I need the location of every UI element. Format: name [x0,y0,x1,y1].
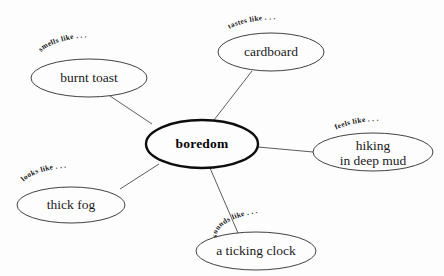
edge-tastes [214,71,252,120]
branch-node-looks[interactable]: thick fog looks like . . . [17,161,125,223]
relation-label-looks: looks like . . . [19,161,67,183]
branch-node-smells[interactable]: burnt toast smells like . . . [31,30,147,97]
node-label-looks: thick fog [47,197,96,212]
branch-node-tastes[interactable]: cardboard tastes like . . . [218,12,324,71]
branch-node-feels[interactable]: hiking in deep mud feels like . . . [313,114,433,171]
node-label-tastes: cardboard [244,44,298,59]
concept-map-diagram: burnt toast smells like . . . cardboard … [0,0,444,276]
center-node-label: boredom [176,136,229,151]
node-label-feels-line1: hiking [356,138,391,153]
node-label-sounds: a ticking clock [216,243,296,258]
edge-looks [120,164,159,189]
node-label-smells: burnt toast [60,70,118,85]
node-label-feels-line2: in deep mud [340,153,407,168]
edge-smells [110,96,152,124]
relation-label-smells: smells like . . . [36,30,87,53]
edge-feels [258,147,313,152]
branch-node-sounds[interactable]: a ticking clock sounds like . . . [196,206,316,270]
relation-label-feels: feels like . . . [333,114,379,132]
center-node[interactable]: boredom [146,120,258,168]
relation-label-tastes: tastes like . . . [226,12,276,30]
